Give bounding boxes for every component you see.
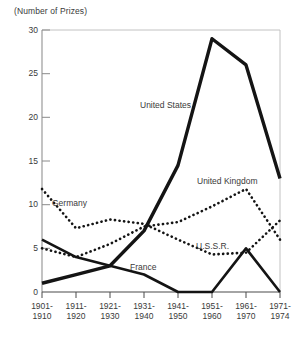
x-tick-marks (42, 292, 280, 298)
y-tick-marks (42, 30, 50, 248)
series-label-united-kingdom: United Kingdom (197, 177, 257, 186)
series-label-germany: Germany (52, 199, 87, 208)
series-label-france: France (130, 263, 156, 272)
series-line-france (42, 240, 280, 292)
x-tick-label-line2: 1974 (260, 311, 299, 321)
plot-area (0, 0, 299, 339)
x-tick-label-1971-1974: 1971- 1974 (260, 301, 299, 321)
x-tick-label-line1: 1971- (260, 301, 299, 311)
nobel-prizes-line-chart: (Number of Prizes) 30 25 20 15 10 5 0 (0, 0, 299, 339)
series-line-united-states (42, 39, 280, 284)
series-label-united-states: United States (140, 101, 191, 110)
series-label-ussr: U.S.S.R. (196, 242, 229, 251)
plot-frame (42, 30, 280, 292)
